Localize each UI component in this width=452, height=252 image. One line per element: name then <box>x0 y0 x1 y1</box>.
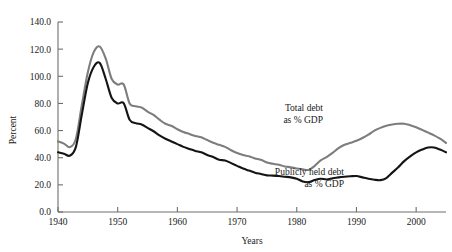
publicly-held-debt-label-line-0: Publicly held debt <box>275 167 344 177</box>
x-tick-label: 1960 <box>168 217 187 227</box>
chart-annotations: Total debtas % GDPPublicly held debtas %… <box>275 103 344 189</box>
x-axis-title: Years <box>241 236 263 246</box>
y-tick-label: 80.0 <box>34 99 51 109</box>
x-tick-label: 1940 <box>49 217 68 227</box>
total-debt-label-line-1: as % GDP <box>283 115 323 125</box>
x-axis-tick-labels: 1940195019601970198019902000 <box>49 217 426 227</box>
debt-gdp-line-chart: 0.020.040.060.080.0100.0120.0140.0 19401… <box>0 0 452 252</box>
total-debt-label-line-0: Total debt <box>285 103 323 113</box>
chart-canvas: 0.020.040.060.080.0100.0120.0140.0 19401… <box>0 0 452 252</box>
x-tick-label: 1970 <box>228 217 247 227</box>
y-tick-label: 60.0 <box>34 126 51 136</box>
y-axis-title: Percent <box>8 115 18 144</box>
x-tick-label: 1980 <box>287 217 306 227</box>
publicly-held-debt-label-line-1: as % GDP <box>304 179 344 189</box>
y-axis-ticks <box>58 22 63 212</box>
y-tick-label: 100.0 <box>30 72 52 82</box>
x-tick-label: 1950 <box>108 217 127 227</box>
y-tick-label: 120.0 <box>30 45 52 55</box>
y-tick-label: 20.0 <box>34 180 51 190</box>
y-axis-tick-labels: 0.020.040.060.080.0100.0120.0140.0 <box>30 17 52 217</box>
total-debt-label: Total debtas % GDP <box>283 103 323 125</box>
series-line-total-debt <box>58 46 446 170</box>
y-tick-label: 140.0 <box>30 17 52 27</box>
x-axis-ticks <box>58 207 416 212</box>
x-tick-label: 1990 <box>347 217 366 227</box>
y-tick-label: 0.0 <box>39 207 51 217</box>
series-line-publicly-held-debt <box>58 62 446 182</box>
x-tick-label: 2000 <box>407 217 426 227</box>
y-tick-label: 40.0 <box>34 153 51 163</box>
